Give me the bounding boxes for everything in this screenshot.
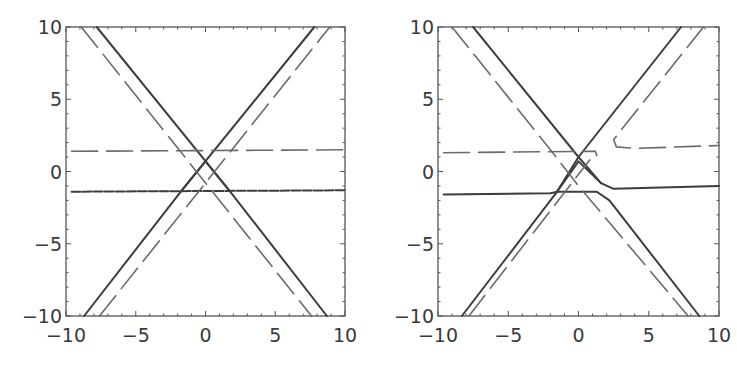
x-tick-label: 5 xyxy=(269,324,281,346)
y-tick-label: 5 xyxy=(50,88,62,110)
plot-frame xyxy=(438,27,719,316)
curve-solid-diag-down xyxy=(97,27,327,316)
x-tick-label: −10 xyxy=(418,324,458,346)
plot-area: −10−505101050−5−10 xyxy=(22,16,357,346)
y-tick-label: 5 xyxy=(422,88,434,110)
y-tick-label: −10 xyxy=(394,305,434,327)
curve-dashed-diag-up xyxy=(469,160,590,316)
curve-solid-diag-down-bend xyxy=(473,27,719,189)
y-tick-label: −5 xyxy=(34,233,62,255)
plot-frame xyxy=(66,27,345,316)
x-tick-label: −10 xyxy=(46,324,86,346)
y-tick-label: −10 xyxy=(22,305,62,327)
y-tick-label: 0 xyxy=(422,161,434,183)
x-tick-label: −5 xyxy=(494,324,522,346)
y-tick-label: 10 xyxy=(410,16,434,38)
contour-plot-right: −10−505101050−5−10 xyxy=(370,0,737,388)
x-tick-label: −5 xyxy=(122,324,150,346)
curve-dashed-horizontal xyxy=(72,150,345,152)
curve-solid-diag-up xyxy=(84,27,314,316)
x-tick-label: 0 xyxy=(572,324,584,346)
plot-area: −10−505101050−5−10 xyxy=(394,16,731,346)
x-tick-label: 5 xyxy=(643,324,655,346)
contour-plot-left: −10−505101050−5−10 xyxy=(0,0,370,388)
y-tick-label: 0 xyxy=(50,161,62,183)
y-tick-label: −5 xyxy=(406,233,434,255)
y-tick-label: 10 xyxy=(38,16,62,38)
x-tick-label: 0 xyxy=(199,324,211,346)
curve-solid-lower-arch xyxy=(444,192,700,316)
x-tick-label: 10 xyxy=(333,324,357,346)
curve-dashed-left-horizontal xyxy=(444,151,597,155)
curve-dashed-diag-up xyxy=(100,27,330,316)
curve-dashed-diag-down xyxy=(81,27,311,316)
curve-solid-inner-triangle xyxy=(182,161,229,190)
curve-solid-horizontal xyxy=(72,190,345,191)
x-tick-label: 10 xyxy=(707,324,731,346)
